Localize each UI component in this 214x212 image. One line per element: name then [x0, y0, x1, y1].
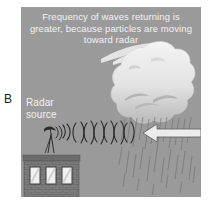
radar-waves-icon [63, 121, 134, 144]
radar-source-label: Radar source [26, 97, 57, 121]
radar-antenna-icon [44, 126, 62, 153]
illustration-scene: Frequency of waves returning is greater,… [21, 7, 201, 197]
figure-panel-b: B [0, 0, 214, 212]
radar-building-icon [23, 155, 80, 197]
radar-source-line-2: source [26, 109, 57, 121]
radar-source-line-1: Radar [26, 97, 54, 108]
caption-text: Frequency of waves returning is greater,… [25, 11, 197, 46]
panel-letter-label: B [4, 92, 12, 106]
